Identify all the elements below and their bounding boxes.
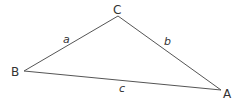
side-label-a: a (63, 33, 70, 46)
vertex-label-c: C (113, 3, 121, 17)
vertex-label-b: B (11, 65, 19, 79)
triangle-abc (24, 16, 221, 90)
vertex-label-a: A (223, 87, 232, 101)
triangle-diagram: C B A a b c (0, 0, 240, 103)
side-label-c: c (119, 82, 125, 95)
side-label-b: b (164, 35, 171, 48)
